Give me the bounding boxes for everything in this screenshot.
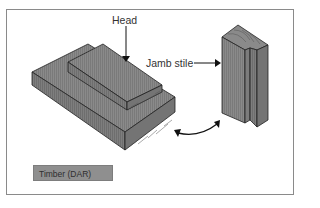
head-label: Head [112, 15, 137, 26]
jamb-stile-arrow [194, 59, 221, 67]
head-arrow [122, 26, 130, 62]
jamb-stile [222, 25, 268, 127]
jamb-stile-label: Jamb stile [146, 58, 193, 69]
legend-swatch: Timber (DAR) [33, 165, 113, 181]
legend-label: Timber (DAR) [39, 169, 91, 179]
curved-double-arrow-icon [174, 120, 220, 137]
